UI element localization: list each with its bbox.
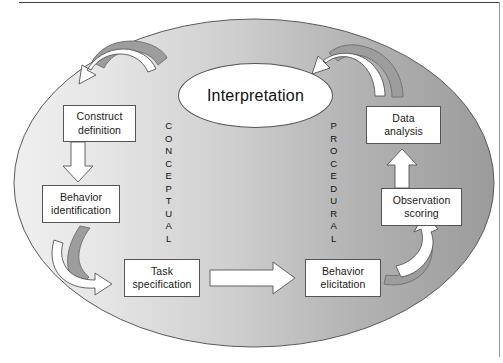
procedural-letter: O <box>330 145 337 158</box>
conceptual-letter: T <box>166 195 172 208</box>
conceptual-letter: C <box>165 158 172 171</box>
figure-container: Interpretation C O N C E P T U A L P R O… <box>0 0 503 363</box>
conceptual-letter: P <box>166 183 172 196</box>
procedural-letter: P <box>331 120 337 133</box>
node-label-line1: Observation <box>393 194 451 207</box>
node-observation-scoring: Observation scoring <box>381 188 462 226</box>
node-label-line2: elicitation <box>321 278 366 291</box>
node-construct-definition: Construct definition <box>63 105 136 142</box>
node-behavior-elicitation: Behavior elicitation <box>305 259 381 297</box>
node-data-analysis: Data analysis <box>366 106 441 144</box>
procedural-vertical-label: P R O C E D U R A L <box>330 120 337 245</box>
node-label-line1: Data <box>392 112 415 125</box>
diagram-canvas <box>0 0 503 363</box>
interpretation-oval: Interpretation <box>178 63 333 128</box>
procedural-letter: D <box>330 183 337 196</box>
procedural-letter: R <box>330 208 337 221</box>
node-label-line2: definition <box>78 124 121 137</box>
conceptual-letter: U <box>165 208 172 221</box>
node-label-line1: Behavior <box>322 265 364 278</box>
node-label-line2: specification <box>132 278 191 291</box>
procedural-letter: C <box>330 158 337 171</box>
procedural-letter: A <box>331 220 337 233</box>
procedural-letter: R <box>330 133 337 146</box>
interpretation-label: Interpretation <box>207 87 304 105</box>
procedural-letter: U <box>330 195 337 208</box>
procedural-letter: L <box>331 233 336 246</box>
node-label-line1: Construct <box>77 110 123 123</box>
conceptual-letter: C <box>165 120 172 133</box>
node-behavior-identification: Behavior identification <box>42 185 120 223</box>
node-label-line2: analysis <box>384 125 423 138</box>
node-task-specification: Task specification <box>124 259 200 297</box>
node-label-line1: Behavior <box>60 191 102 204</box>
conceptual-letter: N <box>165 145 172 158</box>
node-label-line2: identification <box>51 204 111 217</box>
conceptual-vertical-label: C O N C E P T U A L <box>165 120 172 245</box>
conceptual-letter: E <box>166 170 172 183</box>
conceptual-letter: O <box>165 133 172 146</box>
conceptual-letter: A <box>166 220 172 233</box>
node-label-line1: Task <box>151 265 173 278</box>
conceptual-letter: L <box>166 233 171 246</box>
procedural-letter: E <box>331 170 337 183</box>
node-label-line2: scoring <box>404 207 439 220</box>
